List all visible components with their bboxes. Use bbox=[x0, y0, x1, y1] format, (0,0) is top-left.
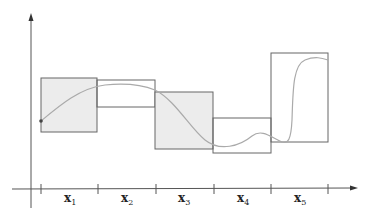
diagram-canvas bbox=[0, 0, 368, 217]
y-axis-arrow-icon bbox=[29, 13, 34, 21]
box-x1 bbox=[41, 78, 97, 132]
box-x3 bbox=[155, 92, 213, 149]
axis-label-x2: x2 bbox=[121, 191, 133, 207]
axis-label-x5: x5 bbox=[294, 191, 306, 207]
axis-label-x3: x3 bbox=[178, 191, 190, 207]
box-x5 bbox=[271, 53, 328, 142]
box-x4 bbox=[213, 118, 271, 153]
axis-label-x1: x1 bbox=[64, 191, 76, 207]
x-axis bbox=[12, 188, 352, 189]
x-axis-arrow-icon bbox=[350, 186, 358, 191]
axis-label-x4: x4 bbox=[237, 191, 249, 207]
start-point-dot bbox=[39, 119, 43, 123]
